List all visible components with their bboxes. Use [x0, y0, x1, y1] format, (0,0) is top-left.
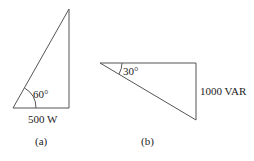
triangle-a-angle-label: 60°: [33, 88, 48, 100]
power-triangles-diagram: 60° 500 W (a) 30° 1000 VAR (b): [0, 0, 254, 161]
triangle-b-angle-arc: [119, 63, 122, 74]
triangle-a-caption: (a): [35, 135, 48, 148]
triangle-b: 30° 1000 VAR (b): [100, 63, 247, 148]
triangle-b-caption: (b): [141, 135, 154, 148]
triangle-b-shape: [100, 63, 196, 120]
triangle-a: 60° 500 W (a): [13, 9, 69, 148]
triangle-b-side-label: 1000 VAR: [200, 85, 247, 97]
triangle-b-angle-label: 30°: [123, 65, 138, 77]
triangle-a-base-label: 500 W: [28, 113, 58, 125]
